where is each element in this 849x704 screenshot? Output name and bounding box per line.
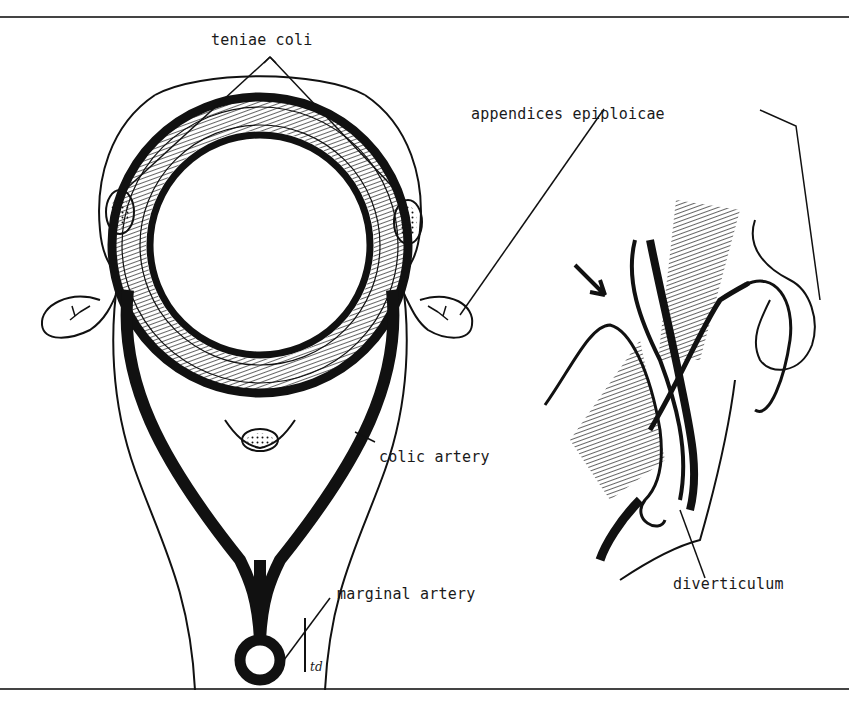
label-marginal-artery: marginal artery (337, 585, 475, 603)
artist-signature: td (310, 660, 323, 674)
label-teniae-coli: teniae coli (211, 31, 313, 49)
label-appendices-epiploicae: appendices epiploicae (471, 105, 665, 123)
diverticulum-section (460, 109, 820, 580)
label-colic-artery: colic artery (379, 448, 490, 466)
label-diverticulum: diverticulum (673, 575, 784, 593)
